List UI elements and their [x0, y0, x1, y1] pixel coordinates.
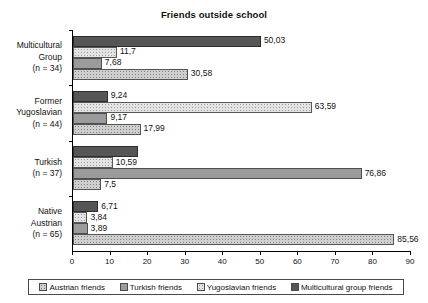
bar-turkish[interactable] [73, 113, 107, 124]
bar-multicultural[interactable] [73, 146, 138, 157]
bar-row: 6,71 [73, 201, 411, 212]
chart-legend: Austrian friendsTurkish friendsYugoslavi… [28, 279, 404, 295]
value-axis-line [72, 251, 411, 252]
bar-value-label: 10,59 [113, 157, 137, 168]
bar-chart: Friends outside school 01020304050607080… [0, 0, 428, 303]
category-label-line: Yugoslavian [0, 107, 62, 119]
bar-group: 6,713,843,8985,56 [73, 201, 411, 245]
bar-group: 50,0311,77,6830,58 [73, 36, 411, 80]
bar-value-label: 3,84 [87, 212, 107, 223]
category-label-line: Austrian [0, 218, 62, 230]
bar-austrian[interactable] [73, 234, 394, 245]
category-axis-tick [69, 196, 72, 197]
bar-row: 9,17 [73, 113, 411, 124]
x-axis-tick-label: 10 [105, 257, 114, 266]
bar-austrian[interactable] [73, 69, 188, 80]
legend-item-label: Multicultural group friends [301, 283, 393, 292]
bar-turkish[interactable] [73, 58, 102, 69]
bar-group: 9,2463,599,1717,99 [73, 91, 411, 135]
legend-item-label: Turkish friends [130, 283, 182, 292]
bar-row [73, 146, 411, 157]
bar-row: 63,59 [73, 102, 411, 113]
legend-item-yugoslavian[interactable]: Yugoslavian friends [197, 283, 276, 292]
bar-value-label: 30,58 [188, 68, 212, 79]
category-label-line: (n = 37) [0, 168, 62, 180]
x-axis-tick-label: 60 [293, 257, 302, 266]
bar-yugoslavian[interactable] [73, 102, 312, 113]
category-label: NativeAustrian(n = 65) [0, 206, 62, 241]
x-axis-tick-label: 30 [180, 257, 189, 266]
category-label: MulticulturalGroup(n = 34) [0, 40, 62, 75]
bar-value-label: 9,24 [108, 90, 128, 101]
bar-row: 30,58 [73, 69, 411, 80]
category-label: Turkish(n = 37) [0, 157, 62, 180]
bar-value-label: 11,7 [117, 46, 136, 57]
category-axis-tick [69, 141, 72, 142]
category-label-line: (n = 34) [0, 63, 62, 75]
bar-value-label: 17,99 [141, 123, 165, 134]
category-label-line: (n = 65) [0, 229, 62, 241]
x-axis-tick [372, 251, 373, 255]
bar-row: 3,84 [73, 212, 411, 223]
bar-yugoslavian[interactable] [73, 157, 113, 168]
legend-swatch-icon [197, 283, 205, 291]
x-axis-tick [297, 251, 298, 255]
x-axis-tick [260, 251, 261, 255]
x-axis-tick [335, 251, 336, 255]
bar-multicultural[interactable] [73, 91, 108, 102]
plot-area: 0102030405060708090 50,0311,77,6830,589,… [72, 30, 410, 251]
category-label-line: Group [0, 52, 62, 64]
bar-value-label: 6,71 [98, 201, 118, 212]
bar-turkish[interactable] [73, 168, 362, 179]
x-axis-tick-label: 90 [406, 257, 415, 266]
x-axis-tick [110, 251, 111, 255]
bar-austrian[interactable] [73, 124, 141, 135]
legend-item-austrian[interactable]: Austrian friends [39, 283, 105, 292]
bar-row: 85,56 [73, 234, 411, 245]
bar-value-label: 76,86 [362, 168, 386, 179]
category-label-line: (n = 44) [0, 119, 62, 131]
bar-value-label: 50,03 [261, 35, 285, 46]
bar-row: 3,89 [73, 223, 411, 234]
bar-row: 76,86 [73, 168, 411, 179]
bar-value-label: 85,56 [394, 234, 418, 245]
bar-yugoslavian[interactable] [73, 47, 117, 58]
bar-row: 7,68 [73, 58, 411, 69]
bar-austrian[interactable] [73, 179, 101, 190]
category-label-line: Native [0, 206, 62, 218]
x-axis-tick [410, 251, 411, 255]
x-axis-tick-label: 40 [218, 257, 227, 266]
category-axis-tick [69, 30, 72, 31]
x-axis-tick [147, 251, 148, 255]
bar-row: 17,99 [73, 124, 411, 135]
category-label-line: Former [0, 96, 62, 108]
bar-multicultural[interactable] [73, 36, 261, 47]
bar-row: 7,5 [73, 179, 411, 190]
x-axis-tick [72, 251, 73, 255]
legend-item-turkish[interactable]: Turkish friends [120, 283, 182, 292]
x-axis-tick-label: 70 [330, 257, 339, 266]
bar-value-label: 7,5 [101, 179, 116, 190]
chart-title: Friends outside school [0, 9, 428, 20]
legend-item-multicultural[interactable]: Multicultural group friends [291, 283, 393, 292]
legend-item-label: Austrian friends [49, 283, 105, 292]
bar-row: 11,7 [73, 47, 411, 58]
x-axis-tick-label: 80 [368, 257, 377, 266]
bar-value-label: 7,68 [102, 57, 122, 68]
legend-swatch-icon [39, 283, 47, 291]
bar-value-label: 3,89 [88, 223, 108, 234]
bar-yugoslavian[interactable] [73, 212, 87, 223]
bar-multicultural[interactable] [73, 201, 98, 212]
legend-swatch-icon [291, 283, 299, 291]
x-axis-tick-label: 20 [143, 257, 152, 266]
x-axis-tick [185, 251, 186, 255]
x-axis-tick-label: 0 [70, 257, 74, 266]
bar-row: 50,03 [73, 36, 411, 47]
category-label-line: Turkish [0, 157, 62, 169]
category-axis-tick [69, 85, 72, 86]
bar-row: 9,24 [73, 91, 411, 102]
bar-row: 10,59 [73, 157, 411, 168]
bar-value-label: 9,17 [107, 112, 127, 123]
bar-value-label: 63,59 [312, 101, 336, 112]
bar-turkish[interactable] [73, 223, 88, 234]
